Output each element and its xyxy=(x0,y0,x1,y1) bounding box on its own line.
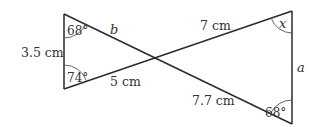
side-label-7cm: 7 cm xyxy=(200,18,231,33)
angle-label-74: 74° xyxy=(67,71,88,85)
angle-label-68-right: 68° xyxy=(265,106,286,120)
diagonal-top-left-to-bottom-right xyxy=(64,14,292,124)
angle-label-68-left: 68° xyxy=(67,24,88,38)
side-label-5cm: 5 cm xyxy=(110,74,141,89)
angle-label-x: x xyxy=(279,16,287,31)
side-label-3-5cm: 3.5 cm xyxy=(21,45,64,60)
side-label-b: b xyxy=(110,22,118,37)
side-label-a: a xyxy=(297,60,305,75)
side-label-7-7cm: 7.7 cm xyxy=(192,93,235,108)
bowtie-diagram: 68° 74° 3.5 cm b 5 cm 7 cm x a 7.7 cm 68… xyxy=(0,0,312,127)
diagonal-bottom-left-to-top-right xyxy=(64,11,292,89)
